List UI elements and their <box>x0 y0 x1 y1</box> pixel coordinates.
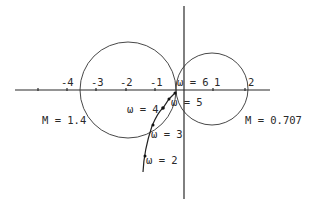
point-omega-4 <box>161 106 165 110</box>
tick-label-1: 1 <box>214 76 220 88</box>
tick-label-neg2: -2 <box>120 76 133 88</box>
label-omega-2: ω = 2 <box>146 154 178 166</box>
label-omega-6: ω = 6 <box>177 76 209 88</box>
m-circle-label-0.707: M = 0.707 <box>245 114 302 126</box>
tick-label-neg4: -4 <box>61 76 74 88</box>
tick-label-neg3: -3 <box>91 76 104 88</box>
point-omega-6 <box>174 92 177 95</box>
point-omega-3 <box>152 124 155 127</box>
label-omega-4: ω = 4 <box>127 103 159 115</box>
label-omega-3: ω = 3 <box>151 128 183 140</box>
nyquist-diagram: -4 -3 -2 -1 1 2 M = 1.4 M = 0.707 ω = 2 … <box>0 0 315 199</box>
tick-label-2: 2 <box>248 76 254 88</box>
tick-label-neg1: -1 <box>150 76 163 88</box>
m-circle-label-1.4: M = 1.4 <box>42 114 86 126</box>
m-circle-0.707 <box>176 53 248 125</box>
label-omega-5: ω = 5 <box>171 96 203 108</box>
